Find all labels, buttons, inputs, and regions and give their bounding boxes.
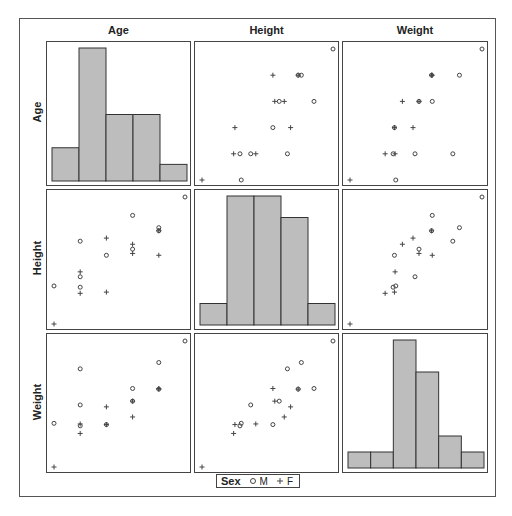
circle-marker-icon [249,477,257,485]
marker-male [78,285,82,289]
histogram-height [194,189,339,330]
histogram-bar [133,115,160,182]
marker-male [131,247,135,251]
legend-label-m: M [260,476,268,487]
marker-male [480,195,484,199]
marker-female [348,178,353,183]
row-label-weight: Weight [31,367,43,437]
marker-male [238,152,242,156]
marker-female [130,251,135,256]
histogram-bar [52,148,79,181]
marker-male [430,99,434,103]
marker-female [272,399,277,404]
marker-female [78,431,83,436]
column-label-weight: Weight [342,24,488,36]
marker-male [52,284,56,288]
histogram-bar [254,196,281,325]
legend-title: Sex [221,475,241,487]
marker-male [480,47,484,51]
marker-female [253,151,258,156]
marker-female [272,99,277,104]
histogram-bar [348,452,371,468]
histogram-bar [416,372,439,468]
marker-female [130,242,135,247]
marker-male [312,99,316,103]
plus-marker-icon [276,477,284,485]
marker-female [416,251,421,256]
histogram-bar [439,436,462,468]
marker-male [417,247,421,251]
marker-male [457,73,461,77]
marker-male [331,47,335,51]
histogram-bar [160,164,187,181]
marker-female [270,73,275,78]
marker-male [392,253,396,257]
marker-female [52,465,57,470]
marker-female [231,151,236,156]
marker-female [393,269,398,274]
scatter-height-vs-weight [342,189,488,330]
marker-female [52,322,57,327]
histogram-bar [371,452,394,468]
marker-male [451,152,455,156]
marker-male [157,361,161,365]
histogram-bar [461,452,484,468]
marker-male [285,152,289,156]
scatter-height-vs-age [46,189,191,330]
scatter-weight-vs-age [46,333,191,473]
marker-female [288,125,293,130]
histogram-age [46,41,191,186]
marker-male [413,275,417,279]
marker-male [271,126,275,130]
marker-female [288,404,293,409]
marker-female [200,178,205,183]
row-label-height: Height [31,223,43,293]
marker-female [232,125,237,130]
histogram-bar [200,304,227,326]
marker-female [411,125,416,130]
marker-male [430,213,434,217]
marker-male [271,423,275,427]
legend-item-f: F [276,476,293,487]
histogram-bar [227,196,254,325]
legend-label-f: F [287,476,293,487]
marker-female [104,404,109,409]
marker-female [348,322,353,327]
histogram-weight [342,333,488,473]
marker-female [78,291,83,296]
histogram-bar [106,115,133,182]
marker-female [392,290,397,295]
histogram-bar [79,48,106,181]
marker-female [104,290,109,295]
histogram-bar [308,304,335,326]
marker-female [400,242,405,247]
marker-female [411,236,416,241]
marker-male [457,226,461,230]
marker-female [232,422,237,427]
marker-female [78,269,83,274]
column-label-height: Height [194,24,339,36]
marker-female [231,431,236,436]
marker-male [78,275,82,279]
marker-male [277,99,281,103]
marker-female [104,236,109,241]
marker-male [239,178,243,182]
scatter-age-vs-weight [342,41,488,186]
marker-female [200,465,205,470]
marker-female [130,414,135,419]
histogram-bar [393,340,416,468]
marker-female [400,99,405,104]
legend-item-m: M [249,476,268,487]
marker-male [285,367,289,371]
scatter-weight-vs-height [194,333,339,473]
marker-male [394,178,398,182]
marker-male [78,367,82,371]
marker-male [249,403,253,407]
marker-female [270,386,275,391]
marker-male [131,386,135,390]
marker-female [253,421,258,426]
marker-male [78,239,82,243]
marker-male [299,361,303,365]
marker-male [451,239,455,243]
marker-male [312,386,316,390]
